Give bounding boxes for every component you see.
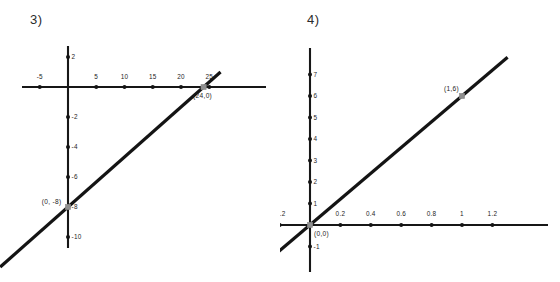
x-tick-label-3-1: 5	[94, 73, 98, 80]
data-point-label-4-0-0: (0,0)	[314, 230, 329, 238]
y-tick-label-4-6: 1	[314, 200, 318, 207]
data-point-label-4-0-1: (1,6)	[444, 85, 459, 93]
x-tick-dot-3-3	[151, 85, 155, 89]
x-tick-dot-4-6	[490, 223, 494, 227]
y-tick-label-4-0: 7	[314, 71, 318, 78]
x-tick-label-3-2: 10	[121, 73, 129, 80]
y-tick-label-4-3: 4	[314, 135, 318, 142]
problem-3-panel: 3) -55101520252-2-4-6-8-10(0, -8)(24,0)	[0, 0, 280, 282]
x-tick-dot-4-4	[430, 223, 434, 227]
y-tick-dot-4-4	[308, 159, 312, 163]
x-tick-dot-3-0	[38, 85, 42, 89]
y-tick-dot-3-0	[66, 55, 70, 59]
data-point-marker-4-0-1	[459, 93, 464, 98]
x-tick-dot-3-5	[207, 85, 211, 89]
y-tick-label-4-4: 3	[314, 157, 318, 164]
y-tick-label-4-5: 2	[314, 178, 318, 185]
problem-3-graph: -55101520252-2-4-6-8-10(0, -8)(24,0)	[0, 0, 280, 282]
data-point-label-3-0-1: (24,0)	[193, 92, 212, 100]
y-tick-dot-3-2	[66, 145, 70, 149]
data-point-marker-3-0-1	[201, 84, 206, 89]
x-tick-dot-4-0	[280, 223, 282, 227]
x-tick-label-3-3: 15	[149, 73, 157, 80]
x-tick-dot-4-5	[460, 223, 464, 227]
x-tick-label-3-5: 25	[205, 73, 213, 80]
y-tick-dot-4-7	[308, 245, 312, 249]
y-tick-dot-4-6	[308, 202, 312, 206]
x-tick-dot-4-2	[369, 223, 373, 227]
data-point-marker-3-0-0	[65, 204, 70, 209]
x-tick-label-3-0: -5	[37, 73, 43, 80]
y-tick-dot-3-5	[66, 235, 70, 239]
x-tick-dot-4-1	[338, 223, 342, 227]
y-tick-dot-4-0	[308, 73, 312, 77]
y-tick-dot-4-2	[308, 116, 312, 120]
problem-4-panel: 4) -0.20.20.40.60.811.27654321-1(0,0)(1,…	[280, 0, 560, 282]
y-tick-label-4-2: 5	[314, 114, 318, 121]
x-tick-dot-3-2	[123, 85, 127, 89]
x-tick-label-4-4: 0.8	[427, 210, 437, 217]
y-tick-label-4-1: 6	[314, 92, 318, 99]
x-tick-label-4-0: -0.2	[280, 210, 286, 217]
plot-line-3-0	[0, 72, 220, 267]
y-tick-label-3-0: 2	[72, 53, 76, 60]
data-point-marker-4-0-0	[307, 222, 312, 227]
y-tick-dot-3-3	[66, 175, 70, 179]
x-tick-label-4-1: 0.2	[336, 210, 346, 217]
y-tick-label-3-5: -10	[72, 233, 82, 240]
y-tick-dot-4-3	[308, 137, 312, 141]
y-tick-label-3-1: -2	[72, 113, 78, 120]
x-tick-label-4-5: 1	[460, 210, 464, 217]
x-tick-label-4-6: 1.2	[488, 210, 498, 217]
worksheet-page: 3) -55101520252-2-4-6-8-10(0, -8)(24,0) …	[0, 0, 560, 282]
y-tick-dot-3-1	[66, 115, 70, 119]
x-tick-label-3-4: 20	[177, 73, 185, 80]
x-tick-label-4-3: 0.6	[396, 210, 406, 217]
y-tick-label-3-2: -4	[72, 143, 78, 150]
y-tick-dot-4-5	[308, 180, 312, 184]
problem-4-graph: -0.20.20.40.60.811.27654321-1(0,0)(1,6)	[280, 0, 560, 282]
y-tick-label-4-7: -1	[314, 243, 320, 250]
y-tick-label-3-3: -6	[72, 173, 78, 180]
x-tick-dot-4-3	[399, 223, 403, 227]
data-point-label-3-0-0: (0, -8)	[42, 198, 62, 206]
x-tick-label-4-2: 0.4	[366, 210, 376, 217]
y-tick-label-3-4: -8	[72, 203, 78, 210]
y-tick-dot-4-1	[308, 94, 312, 98]
x-tick-dot-3-1	[94, 85, 98, 89]
x-tick-dot-3-4	[179, 85, 183, 89]
